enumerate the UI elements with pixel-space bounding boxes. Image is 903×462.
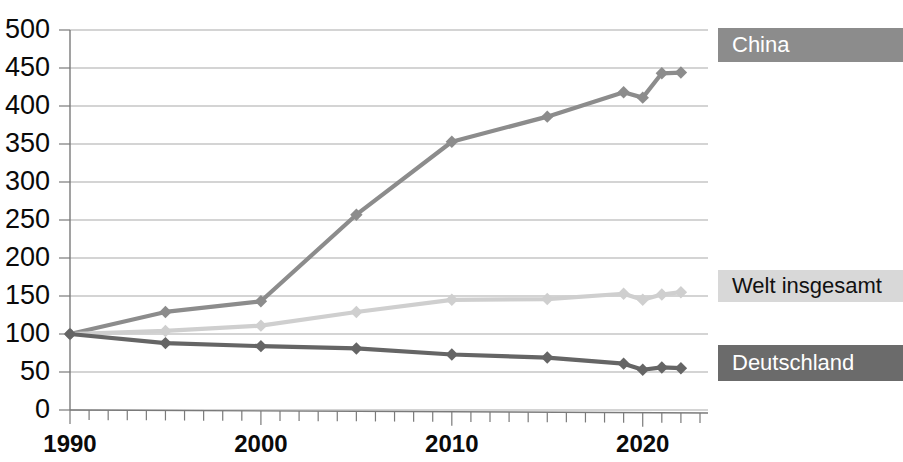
- legend-item-deutschland[interactable]: Deutschland: [718, 345, 903, 381]
- data-point-marker: [617, 288, 629, 300]
- legend-item-welt-insgesamt[interactable]: Welt insgesamt: [718, 270, 903, 302]
- legend-label: China: [732, 32, 790, 57]
- data-point-marker: [541, 110, 553, 122]
- y-axis-tick-label: 400: [5, 90, 50, 120]
- data-series-group: [64, 66, 687, 376]
- y-axis-tick-label: 0: [35, 394, 50, 424]
- data-point-marker: [446, 294, 458, 306]
- data-point-marker: [255, 340, 267, 352]
- line-chart: 500450400350300250200150100500 199020002…: [0, 0, 903, 462]
- data-point-marker: [159, 306, 171, 318]
- data-point-marker: [656, 288, 668, 300]
- data-point-marker: [675, 362, 687, 374]
- data-point-marker: [637, 294, 649, 306]
- data-point-marker: [159, 337, 171, 349]
- data-point-marker: [64, 328, 76, 340]
- gridlines-group: [70, 30, 708, 410]
- legend: ChinaWelt insgesamtDeutschland: [718, 28, 903, 381]
- x-axis-group: [70, 30, 708, 427]
- y-axis-tick-label: 300: [5, 166, 50, 196]
- y-axis-tick-label: 350: [5, 128, 50, 158]
- legend-label: Deutschland: [732, 350, 854, 375]
- series-line: [70, 334, 681, 370]
- y-axis-ticks-group: [59, 30, 70, 410]
- data-point-marker: [637, 364, 649, 376]
- data-point-marker: [541, 293, 553, 305]
- series-deutschland: [64, 328, 687, 376]
- x-axis-tick-label: 2020: [616, 430, 669, 457]
- x-axis-tick-label: 2010: [425, 430, 478, 457]
- data-point-marker: [617, 86, 629, 98]
- y-axis-tick-label: 50: [20, 356, 50, 386]
- x-axis-labels-group: 1990200020102020: [43, 430, 669, 457]
- y-axis-labels-group: 500450400350300250200150100500: [5, 14, 50, 424]
- y-axis-tick-label: 500: [5, 14, 50, 44]
- data-point-marker: [159, 325, 171, 337]
- x-axis-tick-label: 1990: [43, 430, 96, 457]
- data-point-marker: [541, 351, 553, 363]
- data-point-marker: [255, 319, 267, 331]
- data-point-marker: [675, 286, 687, 298]
- y-axis-tick-label: 450: [5, 52, 50, 82]
- x-axis-tick-label: 2000: [234, 430, 287, 457]
- data-point-marker: [617, 357, 629, 369]
- data-point-marker: [350, 306, 362, 318]
- y-axis-tick-label: 150: [5, 280, 50, 310]
- y-axis-tick-label: 250: [5, 204, 50, 234]
- series-china: [64, 66, 687, 340]
- legend-label: Welt insgesamt: [732, 273, 882, 298]
- chart-canvas: 500450400350300250200150100500 199020002…: [0, 0, 903, 462]
- y-axis-tick-label: 200: [5, 242, 50, 272]
- legend-item-china[interactable]: China: [718, 28, 903, 62]
- data-point-marker: [350, 342, 362, 354]
- y-axis-tick-label: 100: [5, 318, 50, 348]
- data-point-marker: [446, 348, 458, 360]
